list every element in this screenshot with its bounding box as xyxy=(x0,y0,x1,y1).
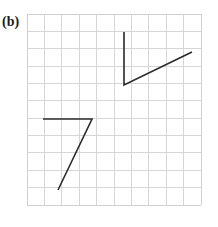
data-series-group xyxy=(43,32,192,190)
plot-canvas xyxy=(0,0,218,227)
figure-panel: (b) xyxy=(0,0,218,227)
grid-group xyxy=(27,14,201,205)
series-lower-left-seven-shape xyxy=(43,119,92,190)
series-upper-right-v-shape xyxy=(124,32,192,85)
